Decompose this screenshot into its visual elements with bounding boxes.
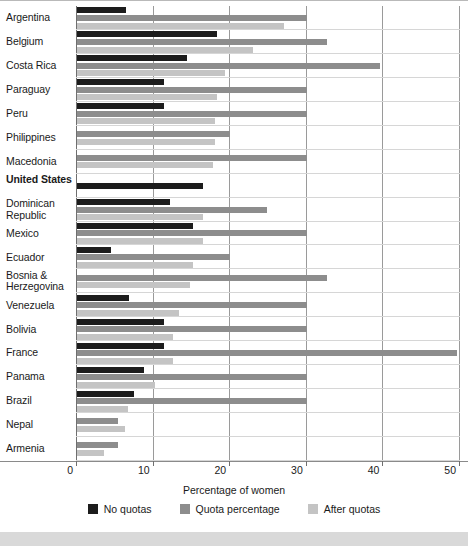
bar-quota-percentage	[77, 350, 457, 356]
chart-row: Nepal	[0, 413, 468, 437]
chart-row: Costa Rica	[0, 54, 468, 78]
chart-legend: No quotasQuota percentageAfter quotas	[0, 503, 468, 515]
chart-row: France	[0, 341, 468, 365]
bar-after-quotas	[77, 382, 155, 388]
bar-quota-percentage	[77, 155, 307, 161]
row-bars	[77, 54, 460, 78]
bottom-band	[0, 532, 468, 546]
bar-quota-percentage	[77, 63, 380, 69]
bar-no-quotas	[77, 391, 134, 397]
chart-row: Philippines	[0, 126, 468, 150]
bar-quota-percentage	[77, 39, 327, 45]
category-label-panama: Panama	[6, 371, 74, 383]
bar-quota-percentage	[77, 111, 307, 117]
category-label-dominican-republic: Dominican Republic	[6, 198, 74, 221]
bar-after-quotas	[77, 310, 179, 316]
category-label-brazil: Brazil	[6, 395, 74, 407]
bar-after-quotas	[77, 70, 225, 76]
x-tick-label-10: 10	[138, 464, 153, 476]
bar-quota-percentage	[77, 131, 230, 137]
bar-quota-percentage	[77, 418, 118, 424]
chart-row: Armenia	[0, 437, 468, 461]
row-bars	[77, 30, 460, 54]
bar-after-quotas	[77, 282, 190, 288]
bar-no-quotas	[77, 367, 144, 373]
category-label-bosnia-herzegovina: Bosnia & Herzegovina	[6, 270, 74, 293]
category-label-ecuador: Ecuador	[6, 252, 74, 264]
row-bars	[77, 78, 460, 102]
category-label-peru: Peru	[6, 108, 74, 120]
top-divider	[0, 0, 468, 1]
chart-row: Ecuador	[0, 245, 468, 269]
bar-quota-percentage	[77, 302, 307, 308]
row-bars	[77, 198, 460, 222]
bar-after-quotas	[77, 94, 217, 100]
bar-quota-percentage	[77, 275, 327, 281]
chart-row: United States	[0, 174, 468, 198]
bar-no-quotas	[77, 55, 187, 61]
category-label-france: France	[6, 347, 74, 359]
row-bars	[77, 245, 460, 269]
category-label-nepal: Nepal	[6, 419, 74, 431]
chart-row: Panama	[0, 365, 468, 389]
row-bars	[77, 269, 460, 293]
chart-row: Peru	[0, 102, 468, 126]
bar-quota-percentage	[77, 326, 307, 332]
bar-no-quotas	[77, 79, 164, 85]
bar-after-quotas	[77, 238, 203, 244]
bar-no-quotas	[77, 295, 129, 301]
bar-quota-percentage	[77, 15, 307, 21]
legend-label: Quota percentage	[196, 503, 280, 515]
legend-swatch-after-quotas-icon	[308, 504, 318, 514]
legend-item: Quota percentage	[180, 503, 280, 515]
row-bars	[77, 317, 460, 341]
x-tick-label-20: 20	[215, 464, 230, 476]
row-bars	[77, 365, 460, 389]
bar-quota-percentage	[77, 398, 307, 404]
category-label-paraguay: Paraguay	[6, 84, 74, 96]
bar-after-quotas	[77, 450, 104, 456]
bar-after-quotas	[77, 47, 253, 53]
x-tick-label-0: 0	[67, 464, 76, 476]
chart-row: Mexico	[0, 222, 468, 246]
chart-row: Dominican Republic	[0, 198, 468, 222]
row-bars	[77, 341, 460, 365]
x-tick-0	[76, 461, 77, 466]
bar-chart-figure: ArgentinaBelgiumCosta RicaParaguayPeruPh…	[0, 0, 468, 546]
x-tick-20	[229, 461, 230, 466]
legend-item: No quotas	[88, 503, 152, 515]
legend-swatch-no-quotas-icon	[88, 504, 98, 514]
bar-quota-percentage	[77, 87, 307, 93]
legend-label: No quotas	[104, 503, 152, 515]
bar-quota-percentage	[77, 207, 267, 213]
chart-row: Belgium	[0, 30, 468, 54]
category-label-macedonia: Macedonia	[6, 156, 74, 168]
chart-row: Venezuela	[0, 293, 468, 317]
x-axis-line	[0, 461, 468, 462]
category-label-united-states: United States	[6, 174, 74, 186]
bar-after-quotas	[77, 139, 215, 145]
bar-no-quotas	[77, 199, 170, 205]
row-bars	[77, 389, 460, 413]
legend-swatch-quota-percentage-icon	[180, 504, 190, 514]
bar-no-quotas	[77, 7, 126, 13]
legend-item: After quotas	[308, 503, 381, 515]
row-bars	[77, 6, 460, 30]
category-label-armenia: Armenia	[6, 443, 74, 455]
bar-after-quotas	[77, 214, 203, 220]
chart-row: Bosnia & Herzegovina	[0, 269, 468, 293]
chart-row: Argentina	[0, 6, 468, 30]
x-tick-40	[382, 461, 383, 466]
bar-quota-percentage	[77, 230, 307, 236]
chart-row: Bolivia	[0, 317, 468, 341]
category-label-costa-rica: Costa Rica	[6, 60, 74, 72]
bar-after-quotas	[77, 406, 128, 412]
legend-label: After quotas	[324, 503, 381, 515]
category-label-bolivia: Bolivia	[6, 324, 74, 336]
chart-row: Paraguay	[0, 78, 468, 102]
bar-after-quotas	[77, 334, 173, 340]
x-tick-label-50: 50	[444, 464, 459, 476]
row-bars	[77, 174, 460, 198]
bar-no-quotas	[77, 31, 217, 37]
category-label-venezuela: Venezuela	[6, 300, 74, 312]
